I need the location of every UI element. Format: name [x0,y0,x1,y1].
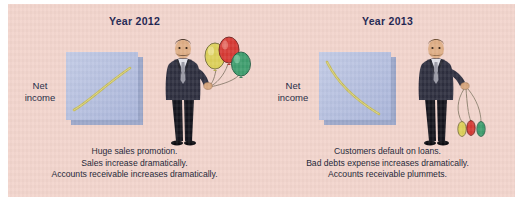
person-suit [166,58,201,100]
chart-plate-face [66,52,138,120]
caption-year-2013: Customers default on loans. Bad debts ex… [267,146,508,181]
caption-line-1: Customers default on loans. [267,146,508,158]
axis-label-net-income-2012: Net income [16,80,64,103]
deflated-balloon-green [477,122,485,137]
caption-line-2: Bad debts expense increases dramatically… [267,158,508,170]
balloon-green [232,52,251,78]
illustration-panel: Year 2012 Net income [8,4,515,197]
deflated-balloon-strings [458,89,481,122]
person-legs [424,99,449,146]
deflated-balloon-yellow [458,122,466,137]
caption-line-3: Accounts receivable plummets. [267,169,508,181]
caption-line-1: Huge sales promotion. [14,146,255,158]
axis-label-line-2: income [269,92,317,104]
panel-title-year-2013: Year 2013 [261,15,514,27]
chart-year-2013 [319,52,397,126]
person-legs [171,99,196,146]
businessman-with-balloons [158,28,254,148]
axis-label-line-2: income [16,92,64,104]
person-suit [419,58,454,100]
chart-plate-face [319,52,391,120]
panel-year-2012: Year 2012 Net income [8,4,261,197]
caption-line-3: Accounts receivable increases dramatical… [14,169,255,181]
panel-title-year-2012: Year 2012 [8,15,261,27]
person-head [175,39,191,59]
panel-year-2013: Year 2013 Net income [261,4,514,197]
axis-label-net-income-2013: Net income [269,80,317,103]
caption-year-2012: Huge sales promotion. Sales increase dra… [14,146,255,181]
person-head [428,39,444,59]
figure-illustration: Year 2012 Net income [0,0,523,213]
caption-line-2: Sales increase dramatically. [14,158,255,170]
chart-year-2012 [66,52,144,126]
axis-label-line-1: Net [269,80,317,92]
net-income-falling-curve [327,62,379,114]
axis-label-line-1: Net [16,80,64,92]
businessman-with-deflated-balloons [411,28,507,148]
deflated-balloon-red [467,121,475,136]
